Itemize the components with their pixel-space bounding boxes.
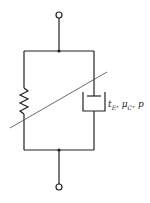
spring-branch bbox=[20, 51, 28, 150]
dashpot-parameters-label: tE, μC, p bbox=[108, 99, 144, 111]
bottom-terminal bbox=[56, 184, 62, 190]
spring-zigzag-icon bbox=[20, 88, 28, 114]
top-terminal bbox=[56, 12, 62, 18]
dashpot-branch bbox=[83, 51, 105, 150]
